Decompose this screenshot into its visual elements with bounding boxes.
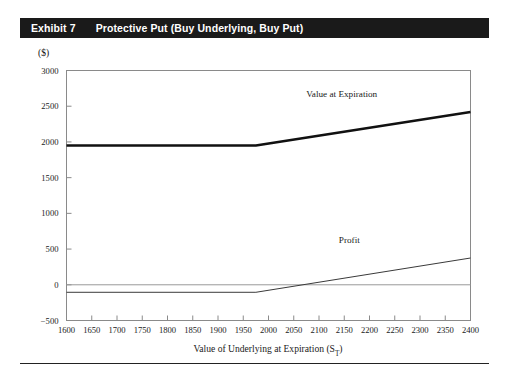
x-tick-label: 2350 — [437, 325, 454, 335]
x-tick-label: 2400 — [462, 325, 479, 335]
y-tick-label: 3000 — [41, 66, 58, 76]
exhibit-footer-rule — [20, 363, 489, 364]
series-label-profit: Profit — [339, 235, 360, 245]
x-tick-label: 2150 — [336, 325, 353, 335]
x-tick-label: 1900 — [209, 325, 226, 335]
x-tick-label: 2100 — [310, 325, 327, 335]
x-tick-label: 1750 — [134, 325, 151, 335]
x-tick-label: 2300 — [411, 325, 428, 335]
x-tick-label: 1950 — [235, 325, 252, 335]
y-tick-label: 1500 — [41, 173, 58, 183]
chart-canvas: −500050010001500200025003000 16001650170… — [0, 0, 510, 382]
x-axis-title: Value of Underlying at Expiration (ST) — [193, 343, 342, 358]
y-tick-label: 2500 — [41, 101, 58, 111]
y-tick-label: 500 — [46, 244, 59, 254]
y-tick-label: 1000 — [41, 208, 58, 218]
x-tick-label: 2050 — [285, 325, 302, 335]
x-tick-label: 2000 — [260, 325, 277, 335]
x-tick-label: 1850 — [184, 325, 201, 335]
x-tick-label: 1600 — [58, 325, 75, 335]
x-tick-label: 1800 — [159, 325, 176, 335]
x-tick-label: 1650 — [83, 325, 100, 335]
x-axis-title-text: Value of Underlying at Expiration (ST) — [193, 343, 342, 358]
y-tick-label: −500 — [41, 316, 59, 326]
x-tick-label: 2200 — [361, 325, 378, 335]
exhibit-figure: Exhibit 7 Protective Put (Buy Underlying… — [0, 0, 510, 382]
plot-frame — [67, 71, 471, 321]
x-tick-label: 2250 — [386, 325, 403, 335]
x-tick-label: 1700 — [108, 325, 125, 335]
y-tick-label: 2000 — [41, 137, 58, 147]
y-tick-label: 0 — [54, 280, 58, 290]
series-label-value-at-expiration: Value at Expiration — [306, 89, 377, 99]
